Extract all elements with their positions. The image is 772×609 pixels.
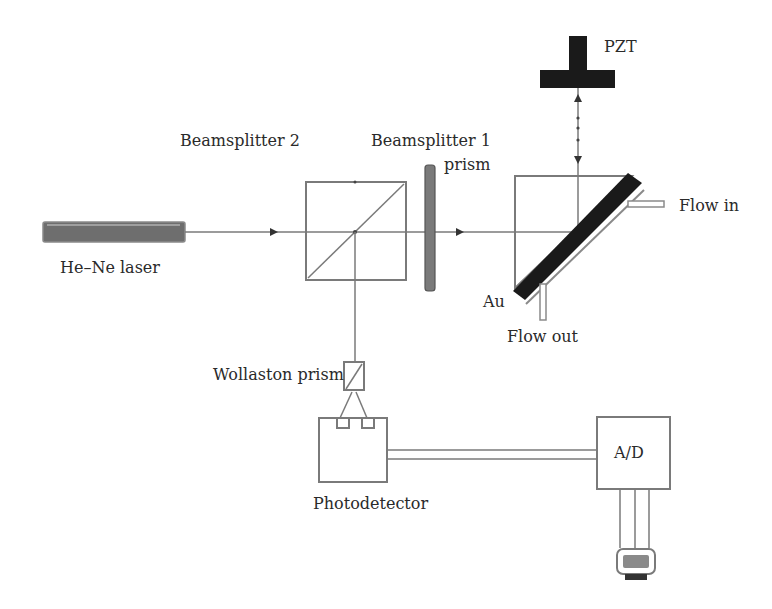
photodetector <box>319 418 387 482</box>
beamsplitter-1-label: Beamsplitter 1 <box>371 131 491 150</box>
beam-arrow-1 <box>270 228 278 236</box>
computer-monitor-icon <box>617 549 655 580</box>
flow-out-label: Flow out <box>507 327 579 346</box>
split-beam-left <box>340 392 352 418</box>
wollaston-prism <box>344 362 364 390</box>
pzt-arrow-up <box>574 94 582 102</box>
beamsplitter-2-label: Beamsplitter 2 <box>180 131 300 150</box>
pzt-label: PZT <box>604 37 637 56</box>
flow-in-tube <box>628 201 664 207</box>
beamsplitter-2 <box>306 181 406 281</box>
beamsplitter-1-sublabel: prism <box>444 155 490 174</box>
pzt-arrow-down <box>574 156 582 164</box>
photodetector-label: Photodetector <box>313 494 428 513</box>
flow-in-label: Flow in <box>679 196 739 215</box>
laser-label: He–Ne laser <box>60 258 160 277</box>
au-label: Au <box>482 292 505 311</box>
flow-out-tube <box>540 284 546 320</box>
beam-arrow-2 <box>456 228 464 236</box>
beamsplitter-1-prism <box>425 165 435 291</box>
split-beam-right <box>356 392 367 418</box>
optical-setup-diagram: He–Ne laser Beamsplitter 2 Beamsplitter … <box>0 0 772 609</box>
ad-label: A/D <box>613 443 644 462</box>
he-ne-laser <box>43 222 185 242</box>
wollaston-label: Wollaston prism <box>213 365 344 384</box>
